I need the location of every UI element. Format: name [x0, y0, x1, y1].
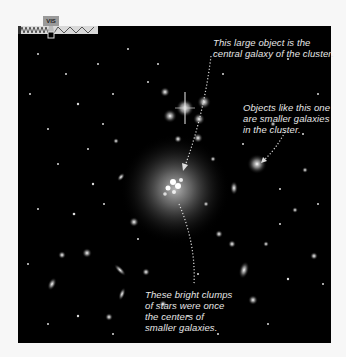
- callout-central-galaxy: This large object is the central galaxy …: [213, 37, 334, 59]
- callout-smaller-galaxies: Objects like this one are smaller galaxi…: [243, 102, 330, 135]
- callout-line: smaller galaxies.: [145, 322, 232, 333]
- wavelength-spectrum-icon: [18, 26, 98, 34]
- callout-line: central galaxy of the cluster.: [213, 48, 334, 59]
- callout-line: in the cluster.: [243, 124, 330, 135]
- callout-line: Objects like this one: [243, 102, 330, 113]
- callout-line: of stars were once: [145, 300, 232, 311]
- callout-line: These bright clumps: [145, 289, 232, 300]
- callout-line: are smaller galaxies: [243, 113, 330, 124]
- callout-line: the centers of: [145, 311, 232, 322]
- band-label: VIS: [43, 16, 59, 26]
- callout-line: This large object is the: [213, 37, 334, 48]
- callout-star-clumps: These bright clumps of stars were once t…: [145, 289, 232, 333]
- band-marker-icon: [46, 26, 56, 40]
